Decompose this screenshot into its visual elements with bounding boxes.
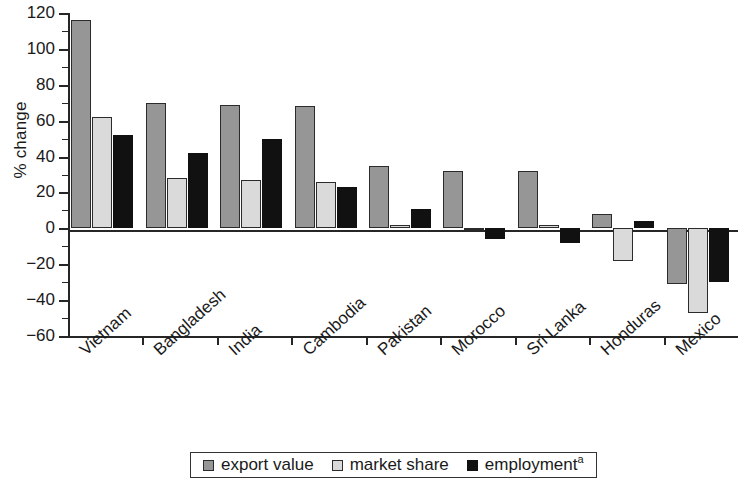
y-tick-label: −40	[0, 290, 55, 310]
bar-export-value-morocco	[443, 171, 463, 228]
bar-export-value-honduras	[592, 214, 612, 228]
y-tick	[59, 121, 68, 123]
plot-area: 120100806040200−20−40−60	[68, 13, 738, 338]
bar-group	[589, 13, 663, 338]
bar-market-share-honduras	[613, 228, 633, 260]
bar-market-share-mexico	[688, 228, 708, 312]
y-tick-label: −60	[0, 326, 55, 346]
bar-export-value-vietnam	[71, 20, 91, 228]
bar-employment-cambodia	[337, 187, 357, 228]
y-tick-label: 120	[0, 3, 55, 23]
bar-export-value-india	[220, 105, 240, 229]
bar-export-value-pakistan	[369, 166, 389, 229]
legend-swatch-share	[332, 460, 343, 471]
legend-label: market share	[350, 455, 449, 475]
bar-market-share-cambodia	[316, 182, 336, 229]
bar-employment-pakistan	[411, 209, 431, 229]
bar-group	[515, 13, 589, 338]
y-tick-label: 20	[0, 182, 55, 202]
y-tick-label: −20	[0, 254, 55, 274]
bar-export-value-mexico	[667, 228, 687, 284]
y-tick	[59, 157, 68, 159]
legend-swatch-employ	[467, 460, 478, 471]
y-tick	[59, 264, 68, 266]
legend-item-employment: employmenta	[467, 455, 584, 475]
legend-label: export value	[221, 455, 314, 475]
chart-legend: export valuemarket shareemploymenta	[190, 452, 597, 478]
y-tick-label: 0	[0, 218, 55, 238]
bar-market-share-sri-lanka	[539, 225, 559, 229]
bar-series-container	[68, 13, 738, 338]
x-axis-labels: VietnamBangladeshIndiaCambodiaPakistanMo…	[68, 345, 738, 445]
bar-group	[664, 13, 738, 338]
bar-export-value-bangladesh	[146, 103, 166, 229]
bar-employment-mexico	[709, 228, 729, 282]
bar-group	[68, 13, 142, 338]
y-tick	[59, 300, 68, 302]
bar-market-share-vietnam	[92, 117, 112, 228]
y-tick	[59, 85, 68, 87]
bar-group	[440, 13, 514, 338]
bar-employment-morocco	[485, 228, 505, 239]
bar-market-share-morocco	[464, 228, 484, 230]
y-tick	[59, 49, 68, 51]
y-tick-label: 60	[0, 110, 55, 130]
y-tick-label: 40	[0, 146, 55, 166]
chart-figure: % change 120100806040200−20−40−60 Vietna…	[0, 0, 738, 480]
bar-group	[291, 13, 365, 338]
bar-export-value-cambodia	[295, 106, 315, 228]
legend-item-market-share: market share	[332, 455, 449, 475]
bar-market-share-bangladesh	[167, 178, 187, 228]
y-tick	[59, 228, 68, 230]
bar-export-value-sri-lanka	[518, 171, 538, 228]
bar-group	[142, 13, 216, 338]
y-tick	[59, 13, 68, 15]
bar-market-share-pakistan	[390, 225, 410, 229]
legend-label: employmenta	[485, 455, 584, 475]
legend-footnote-marker: a	[577, 453, 583, 465]
y-tick	[59, 192, 68, 194]
y-tick	[59, 336, 68, 338]
bar-employment-sri-lanka	[560, 228, 580, 242]
bar-employment-honduras	[634, 221, 654, 228]
legend-swatch-export	[203, 460, 214, 471]
bar-market-share-india	[241, 180, 261, 228]
bar-employment-bangladesh	[188, 153, 208, 228]
bar-employment-vietnam	[113, 135, 133, 228]
legend-item-export-value: export value	[203, 455, 314, 475]
bar-group	[366, 13, 440, 338]
bar-employment-india	[262, 139, 282, 229]
bar-group	[217, 13, 291, 338]
y-tick-label: 80	[0, 74, 55, 94]
y-tick-label: 100	[0, 38, 55, 58]
